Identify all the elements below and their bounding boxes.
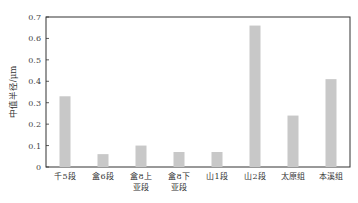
- x-category-label: 盒6段: [92, 171, 113, 181]
- x-category-label: 盒8上: [130, 171, 151, 181]
- bar: [60, 96, 71, 167]
- x-category-label: 亚段: [171, 182, 187, 192]
- bar: [212, 152, 223, 167]
- bar: [288, 116, 299, 167]
- x-category-label: 千5段: [54, 171, 75, 181]
- y-tick-label: 0: [36, 163, 41, 172]
- bar: [136, 146, 147, 167]
- x-category-label: 山2段: [244, 171, 265, 181]
- bar: [250, 26, 261, 167]
- bar: [326, 79, 337, 167]
- y-tick-label: 0.3: [28, 99, 41, 108]
- plot-frame: [46, 17, 350, 167]
- y-axis-label: 中值半径/μm: [8, 66, 18, 118]
- x-category-label: 太原组: [281, 171, 305, 181]
- x-category-label: 山1段: [206, 171, 227, 181]
- y-tick-label: 0.2: [28, 120, 41, 129]
- bar-chart: 00.10.20.30.40.50.60.7中值半径/μm千5段盒6段盒8上亚段…: [0, 0, 358, 203]
- y-tick-label: 0.6: [28, 34, 41, 43]
- y-tick-label: 0.5: [28, 56, 41, 65]
- bar: [98, 154, 109, 167]
- y-tick-label: 0.1: [28, 142, 41, 151]
- x-category-label: 盒8下: [168, 171, 189, 181]
- bar: [174, 152, 185, 167]
- x-category-label: 本溪组: [319, 171, 343, 181]
- y-tick-label: 0.7: [28, 13, 41, 22]
- x-category-label: 亚段: [133, 182, 149, 192]
- y-tick-label: 0.4: [28, 77, 41, 86]
